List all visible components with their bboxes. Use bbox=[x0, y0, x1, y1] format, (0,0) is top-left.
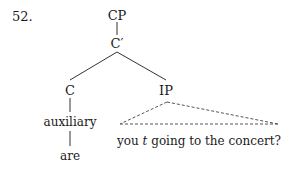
edge-cbar-ip bbox=[117, 52, 166, 80]
leaf-are: are bbox=[60, 150, 80, 162]
node-c: C bbox=[65, 84, 75, 97]
ip-text-before-trace: you bbox=[117, 134, 143, 148]
ip-terminal-string: you t going to the concert? bbox=[117, 135, 281, 147]
node-ip: IP bbox=[159, 84, 173, 97]
ip-triangle bbox=[120, 102, 278, 124]
ip-text-after-trace: going to the concert? bbox=[147, 134, 281, 148]
node-auxiliary: auxiliary bbox=[44, 116, 97, 128]
node-cbar: C′ bbox=[111, 37, 124, 50]
tree-edges bbox=[0, 0, 299, 176]
edge-cbar-c bbox=[70, 52, 117, 80]
node-cp: CP bbox=[108, 9, 127, 22]
